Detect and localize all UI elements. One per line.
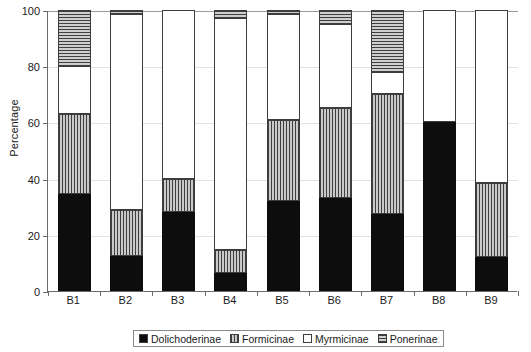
- bar-segment-b5-myrmicinae: [267, 14, 300, 119]
- bar-segment-b4-ponerinae: [214, 10, 247, 18]
- stacked-bar-chart: Percentage 020406080100 B1B2B3B4B5B6B7B8…: [0, 0, 531, 352]
- bar-segment-b7-myrmicinae: [371, 72, 404, 94]
- legend-swatch-myrmicinae-icon: [303, 334, 312, 343]
- bar-b1: [58, 10, 91, 291]
- y-axis-tick-label: 0: [34, 286, 40, 298]
- x-axis-label-b6: B6: [327, 294, 340, 306]
- bar-segment-b6-formicinae: [319, 108, 352, 198]
- bar-segment-b7-formicinae: [371, 94, 404, 213]
- bar-segment-b7-ponerinae: [371, 10, 404, 72]
- y-axis-tick: [43, 180, 48, 181]
- y-axis-tick: [43, 123, 48, 124]
- bar-segment-b9-myrmicinae: [475, 10, 508, 183]
- x-axis-tick: [100, 291, 101, 296]
- legend-item-myrmicinae: Myrmicinae: [303, 333, 369, 345]
- y-axis-tick-label: 100: [22, 5, 40, 17]
- bar-b5: [267, 10, 300, 291]
- bar-segment-b1-myrmicinae: [58, 66, 91, 114]
- x-axis-label-b7: B7: [380, 294, 393, 306]
- bar-segment-b5-dolichoderinae: [267, 201, 300, 291]
- bar-segment-b9-dolichoderinae: [475, 257, 508, 291]
- x-axis-tick: [518, 291, 519, 296]
- bar-segment-b2-formicinae: [110, 210, 143, 256]
- x-axis-label-b5: B5: [275, 294, 288, 306]
- x-axis-tick: [152, 291, 153, 296]
- plot-area: 020406080100: [47, 11, 517, 292]
- legend-swatch-ponerinae-icon: [378, 334, 387, 343]
- legend-label: Formicinae: [242, 333, 294, 345]
- bar-segment-b5-ponerinae: [267, 10, 300, 14]
- legend-label: Myrmicinae: [315, 333, 369, 345]
- bar-segment-b4-dolichoderinae: [214, 273, 247, 291]
- legend-label: Ponerinae: [390, 333, 438, 345]
- bar-segment-b2-dolichoderinae: [110, 256, 143, 291]
- legend-item-formicinae: Formicinae: [230, 333, 294, 345]
- y-axis-tick-label: 20: [28, 230, 40, 242]
- bar-segment-b1-formicinae: [58, 114, 91, 194]
- bar-segment-b4-formicinae: [214, 250, 247, 272]
- bar-b4: [214, 10, 247, 291]
- bar-segment-b3-dolichoderinae: [162, 212, 195, 291]
- x-axis-label-b3: B3: [171, 294, 184, 306]
- bar-segment-b1-ponerinae: [58, 10, 91, 66]
- x-axis-label-b2: B2: [119, 294, 132, 306]
- bar-segment-b9-formicinae: [475, 183, 508, 257]
- legend-swatch-dolichoderinae-icon: [139, 334, 148, 343]
- bar-segment-b5-formicinae: [267, 120, 300, 201]
- y-axis-tick-label: 60: [28, 117, 40, 129]
- chart-legend: DolichoderinaeFormicinaeMyrmicinaePoneri…: [133, 330, 444, 347]
- y-axis-tick-label: 80: [28, 61, 40, 73]
- legend-swatch-formicinae-icon: [230, 334, 239, 343]
- bar-segment-b7-dolichoderinae: [371, 214, 404, 291]
- x-axis-label-b9: B9: [484, 294, 497, 306]
- bar-segment-b2-myrmicinae: [110, 14, 143, 209]
- y-axis-tick-label: 40: [28, 174, 40, 186]
- bar-b2: [110, 10, 143, 291]
- bar-segment-b6-myrmicinae: [319, 24, 352, 108]
- x-axis-tick: [414, 291, 415, 296]
- legend-item-ponerinae: Ponerinae: [378, 333, 438, 345]
- x-axis-tick: [466, 291, 467, 296]
- x-axis-tick: [48, 291, 49, 296]
- bar-b7: [371, 10, 404, 291]
- x-axis-tick: [361, 291, 362, 296]
- bar-segment-b4-myrmicinae: [214, 18, 247, 250]
- x-axis-label-b1: B1: [66, 294, 79, 306]
- bar-segment-b3-formicinae: [162, 179, 195, 213]
- legend-label: Dolichoderinae: [151, 333, 221, 345]
- bar-segment-b8-myrmicinae: [423, 10, 456, 122]
- x-axis-tick: [309, 291, 310, 296]
- bar-segment-b3-myrmicinae: [162, 10, 195, 179]
- x-axis-tick: [205, 291, 206, 296]
- bar-segment-b6-ponerinae: [319, 10, 352, 24]
- y-axis-tick: [43, 236, 48, 237]
- y-axis-tick: [43, 11, 48, 12]
- bar-segment-b8-dolichoderinae: [423, 122, 456, 291]
- x-axis-tick: [257, 291, 258, 296]
- x-axis-label-b8: B8: [432, 294, 445, 306]
- x-axis-label-b4: B4: [223, 294, 236, 306]
- y-axis-title: Percentage: [8, 68, 20, 188]
- bar-segment-b2-ponerinae: [110, 10, 143, 14]
- bar-b9: [475, 10, 508, 291]
- bar-b6: [319, 10, 352, 291]
- bar-b3: [162, 10, 195, 291]
- bar-segment-b6-dolichoderinae: [319, 198, 352, 291]
- bar-segment-b1-dolichoderinae: [58, 194, 91, 291]
- legend-item-dolichoderinae: Dolichoderinae: [139, 333, 221, 345]
- y-axis-tick: [43, 67, 48, 68]
- bar-b8: [423, 10, 456, 291]
